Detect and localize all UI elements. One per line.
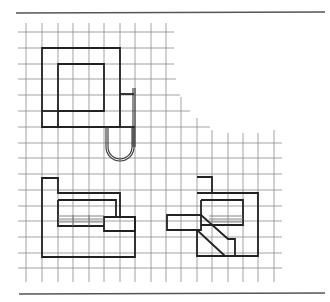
upper-plan [42, 48, 135, 161]
top-rule [16, 12, 325, 13]
page-rules [16, 12, 325, 294]
grid [18, 23, 282, 282]
diagram-canvas [0, 0, 330, 302]
plan-figure [0, 0, 330, 302]
lower-right-stair-diagonal-bottom [197, 230, 225, 256]
upper-outer-square [42, 48, 120, 127]
bottom-rule [19, 293, 325, 294]
lower-left-inner [58, 200, 116, 217]
lower-left-projecting-box [104, 217, 135, 231]
lower-right-side-bar [167, 215, 201, 230]
upper-inner-square [58, 64, 104, 111]
lower-right-tower [197, 177, 212, 193]
lower-left-stair-treads [58, 215, 104, 226]
